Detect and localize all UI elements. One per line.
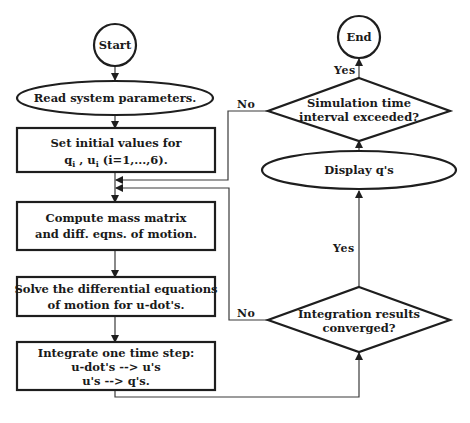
converged-line1: Integration results [298,307,420,321]
node-start: Start [94,24,136,66]
compute-line2: and diff. eqns. of motion. [35,227,197,241]
display-q-label: Display q's [324,163,393,177]
read-parameters-label: Read system parameters. [34,91,196,105]
end-label: End [346,30,371,44]
time-check-yes-label: Yes [333,64,356,77]
start-label: Start [99,38,132,52]
set-initial-line2: qi , ui (i=1,...,6). [64,153,167,169]
integrate-line3: u's --> q's. [82,374,150,388]
node-compute-mass-matrix: Compute mass matrix and diff. eqns. of m… [17,202,215,250]
time-check-no-label: No [237,98,255,111]
solve-line1: Solve the differential equations [14,282,217,296]
set-initial-line1: Set initial values for [51,136,183,150]
node-solve-equations: Solve the differential equations of moti… [14,277,217,316]
node-integration-converged: Integration results converged? [268,287,450,352]
compute-line1: Compute mass matrix [46,211,187,225]
time-check-line2: interval exceeded? [299,110,419,124]
node-display-q: Display q's [262,151,456,189]
time-check-line1: Simulation time [307,96,411,110]
converged-line2: converged? [322,321,395,335]
integrate-line1: Integrate one time step: [38,346,194,360]
flowchart: Start Read system parameters. Set initia… [0,0,470,423]
converged-yes-label: Yes [332,242,355,255]
converged-no-label: No [237,307,255,320]
integrate-line2: u-dot's --> u's [71,360,161,374]
node-end: End [338,16,380,58]
node-set-initial-values: Set initial values for qi , ui (i=1,...,… [17,128,215,172]
solve-line2: of motion for u-dot's. [47,298,184,312]
node-simulation-time-check: Simulation time interval exceeded? [268,78,450,141]
node-read-parameters: Read system parameters. [17,81,213,115]
node-integrate-time-step: Integrate one time step: u-dot's --> u's… [17,342,215,390]
